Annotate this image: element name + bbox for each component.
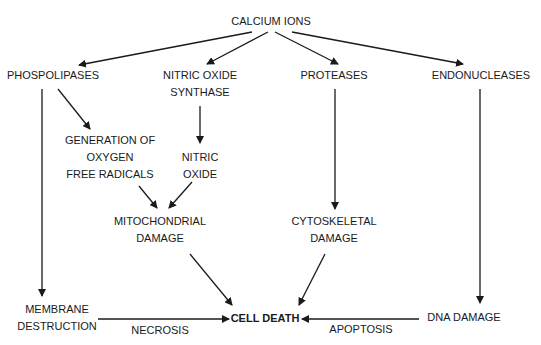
label-apoptosis: APOPTOSIS <box>329 321 392 338</box>
node-cytoskeletal-damage: CYTOSKELETAL DAMAGE <box>291 213 376 247</box>
node-nitric-oxide-synthase: NITRIC OXIDE SYNTHASE <box>163 67 237 101</box>
node-dna-damage: DNA DAMAGE <box>427 309 500 326</box>
arrow-cytoskeletal-to-cell-death <box>299 254 325 305</box>
node-mitochondrial-damage: MITOCHONDRIAL DAMAGE <box>114 213 206 247</box>
arrow-nitric-oxide-to-mitochondrial <box>169 182 192 208</box>
arrow-calcium-to-nos <box>207 32 268 64</box>
node-proteases: PROTEASES <box>300 67 367 84</box>
node-oxygen-free-radicals: GENERATION OF OXYGEN FREE RADICALS <box>65 132 155 183</box>
node-cell-death: CELL DEATH <box>231 310 300 327</box>
node-endonucleases: ENDONUCLEASES <box>432 67 530 84</box>
arrow-mitochondrial-to-cell-death <box>190 254 232 305</box>
node-phospholipases: PHOSPOLIPASES <box>7 67 99 84</box>
node-membrane-destruction: MEMBRANE DESTRUCTION <box>17 301 96 335</box>
calcium-cell-death-diagram: CALCIUM IONS PHOSPOLIPASES NITRIC OXIDE … <box>0 0 541 345</box>
arrow-calcium-to-proteases <box>275 32 338 64</box>
label-necrosis: NECROSIS <box>131 322 188 339</box>
node-nitric-oxide: NITRIC OXIDE <box>182 149 219 183</box>
arrow-free-radicals-to-mitochondrial <box>139 186 157 208</box>
arrow-calcium-to-phospholipases <box>79 32 252 65</box>
arrow-calcium-to-endonucleases <box>292 32 463 64</box>
node-calcium-ions: CALCIUM IONS <box>231 13 310 30</box>
arrow-phospholipases-to-free-radicals <box>58 89 90 129</box>
